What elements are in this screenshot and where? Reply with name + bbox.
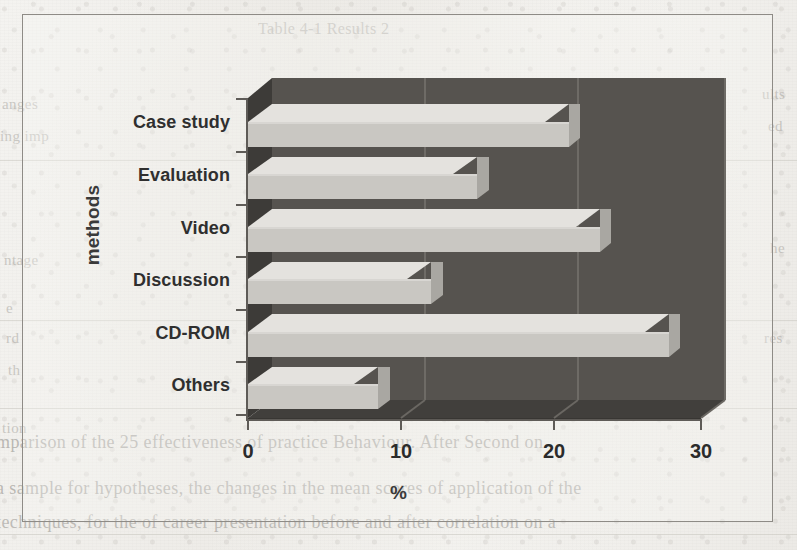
y-tick-2: [236, 204, 247, 206]
y-tick-6: [236, 414, 247, 416]
x-tick-label-10: 10: [381, 440, 421, 463]
x-tick-10: [400, 419, 402, 430]
x-axis-line: [246, 419, 702, 421]
y-tick-1: [236, 151, 247, 153]
y-tick-label-video: Video: [100, 218, 230, 239]
y-tick-0: [236, 98, 247, 100]
y-tick-5: [236, 361, 247, 363]
bar-video: [248, 209, 611, 252]
x-axis-title: %: [0, 482, 797, 504]
bar-case-study: [248, 104, 580, 147]
y-axis-line: [246, 98, 248, 420]
x-tick-label-30: 30: [681, 440, 721, 463]
x-tick-30: [700, 419, 702, 430]
y-tick-label-case-study: Case study: [100, 112, 230, 133]
bar-others: [248, 367, 390, 409]
y-axis-title: methods: [82, 180, 104, 270]
y-tick-label-cd-rom: CD-ROM: [100, 323, 230, 344]
y-tick-4: [236, 309, 247, 311]
y-tick-label-others: Others: [100, 375, 230, 396]
x-tick-20: [553, 419, 555, 430]
x-tick-label-20: 20: [534, 440, 574, 463]
bar-cd-rom: [248, 314, 680, 357]
bar-discussion: [248, 262, 443, 304]
y-tick-label-discussion: Discussion: [100, 270, 230, 291]
y-tick-label-evaluation: Evaluation: [100, 165, 230, 186]
bar-evaluation: [248, 157, 489, 199]
x-tick-label-0: 0: [228, 440, 268, 463]
bar-chart: Case study Evaluation Video Discussion C…: [0, 0, 797, 550]
x-tick-0: [247, 419, 249, 430]
y-tick-3: [236, 256, 247, 258]
